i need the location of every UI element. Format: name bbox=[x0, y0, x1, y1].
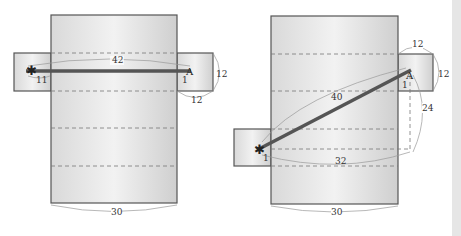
left-diagram: ✱ A bbox=[14, 15, 220, 212]
scrollbar[interactable] bbox=[452, 0, 461, 236]
left-path-length: 42 bbox=[112, 55, 123, 65]
right-vertical: 24 bbox=[422, 103, 433, 113]
right-bottom-width: 30 bbox=[331, 207, 342, 217]
right-side-height: 12 bbox=[438, 69, 449, 79]
right-horizontal: 32 bbox=[335, 156, 346, 166]
left-offset: 11 bbox=[36, 75, 47, 85]
right-top-width: 12 bbox=[412, 39, 423, 49]
diagram-canvas: ✱ A ✱ A bbox=[0, 0, 461, 236]
right-offset: 1 bbox=[182, 75, 188, 85]
side-height: 12 bbox=[216, 69, 227, 79]
right-right-offset: 1 bbox=[402, 80, 408, 90]
side-width: 12 bbox=[191, 95, 202, 105]
main-panel bbox=[51, 15, 177, 203]
bottom-width: 30 bbox=[111, 207, 122, 217]
right-path-length: 40 bbox=[331, 92, 342, 102]
right-left-offset: 1 bbox=[263, 153, 269, 163]
right-diagram: ✱ A bbox=[234, 16, 439, 212]
